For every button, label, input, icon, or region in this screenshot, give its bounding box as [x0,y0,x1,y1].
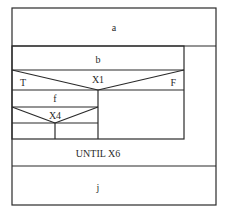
loop-condition-label: UNTIL X6 [76,148,120,159]
false-label: F [170,77,176,88]
structogram: a b T X1 F f X4 UNTIL X6 j [0,0,228,217]
decision2-condition: X4 [49,110,61,121]
block-f-label: f [53,93,57,104]
true-label: T [20,77,26,88]
block-j-label: j [96,182,100,193]
decision1-condition: X1 [92,74,104,85]
block-a-label: a [112,22,117,33]
decision2-right-diagonal [55,107,98,123]
block-b-label: b [96,54,101,65]
